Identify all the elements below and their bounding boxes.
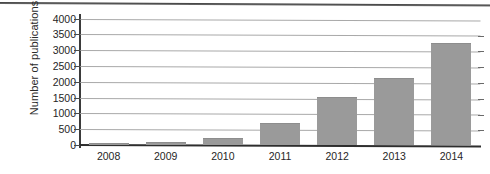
y-axis-tick-mark [74,145,80,146]
y-axis-tick-mark [74,19,80,20]
y-axis-tick-label: 0 [36,139,76,151]
y-axis-tick-label: 500 [36,123,76,135]
x-axis-tick-label: 2014 [440,150,463,162]
bar-2008 [89,143,129,146]
right-edge-tick-mark [478,130,484,131]
y-axis-tick-label: 2500 [36,60,76,72]
bar-series [80,0,480,174]
y-axis-tick-mark [74,113,80,114]
bar-2011 [260,123,300,145]
right-edge-tick-mark [478,51,484,52]
x-axis-tick-label: 2008 [97,150,120,162]
right-edge-tick-mark [478,99,484,100]
right-edge-tick-mark [478,83,484,84]
x-axis-tick-label: 2013 [383,150,406,162]
y-axis-tick-mark [74,50,80,51]
y-axis-tick-mark [74,129,80,130]
y-axis-tick-mark [74,34,80,35]
x-axis-tick-label: 2010 [211,150,234,162]
bar-2013 [374,78,414,145]
x-axis-tick-label: 2011 [269,150,292,162]
x-axis-tick-label: 2009 [154,150,177,162]
y-axis-tick-label: 1000 [36,107,76,119]
bar-2010 [203,138,243,145]
right-edge-tick-mark [478,115,484,116]
bar-2009 [146,142,186,145]
right-edge-tick-mark [478,67,484,68]
y-axis-tick-label: 4000 [36,13,76,25]
right-edge-tick-mark [478,36,484,37]
y-axis-tick-mark [74,98,80,99]
y-axis-tick-label: 3000 [36,44,76,56]
y-axis-tick-label: 2000 [36,76,76,88]
y-axis-tick-label: 1500 [36,92,76,104]
y-axis-tick-mark [74,66,80,67]
chart-figure: Number of publications 05001000150020002… [0,0,490,174]
bar-2012 [317,97,357,145]
bar-2014 [431,43,471,145]
y-axis-tick-labels: 05001000150020002500300035004000 [30,0,76,174]
x-axis-tick-label: 2012 [325,150,348,162]
y-axis-tick-mark [74,82,80,83]
y-axis-tick-label: 3500 [36,28,76,40]
